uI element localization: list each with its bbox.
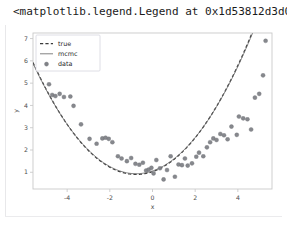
- data-point: [245, 117, 249, 121]
- data-point: [173, 175, 177, 179]
- data-point: [165, 168, 169, 172]
- output-cell-left-rule: [5, 25, 6, 217]
- data-point: [158, 166, 162, 170]
- data-point: [241, 116, 245, 120]
- matplotlib-figure: -4-20241234567xytruemcmcdata: [10, 24, 280, 214]
- data-point: [154, 158, 158, 162]
- data-point: [197, 151, 201, 155]
- data-point: [249, 127, 253, 131]
- data-point: [58, 92, 62, 96]
- data-point: [107, 137, 111, 141]
- data-point: [257, 92, 261, 96]
- data-point: [183, 156, 187, 160]
- data-point: [222, 133, 226, 137]
- y-tick-label: 4: [24, 102, 28, 109]
- legend-repr-text: <matplotlib.legend.Legend at 0x1d53812d3…: [13, 5, 287, 19]
- x-axis-label: x: [151, 203, 155, 210]
- data-point: [190, 161, 194, 165]
- legend-entry-label: mcmc: [58, 50, 78, 58]
- x-tick-label: -4: [64, 194, 70, 201]
- legend-swatch-marker: [44, 62, 48, 66]
- legend-entry-label: data: [58, 60, 72, 68]
- data-point: [88, 137, 92, 141]
- data-point: [116, 154, 120, 158]
- data-point: [47, 82, 51, 86]
- data-point: [53, 94, 57, 98]
- data-point: [169, 154, 173, 158]
- y-axis-label: y: [12, 109, 20, 113]
- data-point: [205, 145, 209, 149]
- data-point: [162, 177, 166, 181]
- y-tick-label: 5: [24, 79, 28, 86]
- data-point: [253, 96, 257, 100]
- x-tick-label: 2: [193, 194, 197, 201]
- legend-entry-label: true: [58, 40, 71, 48]
- data-point: [186, 164, 190, 168]
- data-point: [120, 156, 124, 160]
- data-point: [180, 163, 184, 167]
- y-tick-label: 1: [24, 168, 28, 175]
- data-point: [235, 133, 239, 137]
- data-point: [68, 94, 72, 98]
- data-point: [125, 159, 129, 163]
- data-point: [71, 104, 75, 108]
- data-point: [264, 39, 268, 43]
- data-point: [194, 155, 198, 159]
- data-point: [201, 154, 205, 158]
- x-tick-label: -2: [107, 194, 113, 201]
- data-point: [137, 163, 141, 167]
- y-tick-label: 7: [24, 35, 28, 42]
- data-point: [214, 138, 218, 142]
- data-point: [261, 73, 265, 77]
- data-point: [110, 140, 114, 144]
- data-point: [95, 142, 99, 146]
- data-point: [129, 156, 133, 160]
- data-point: [149, 166, 153, 170]
- x-tick-label: 0: [151, 194, 155, 201]
- data-point: [141, 161, 145, 165]
- data-point: [62, 95, 66, 99]
- plot-canvas: -4-20241234567xytruemcmcdata: [10, 24, 280, 214]
- output-cell-bottom-rule: [5, 216, 282, 217]
- notebook-output-cell: <matplotlib.legend.Legend at 0x1d53812d3…: [0, 0, 287, 229]
- data-point: [133, 162, 137, 166]
- data-point: [208, 140, 212, 144]
- data-point: [229, 125, 233, 129]
- x-tick-label: 4: [236, 194, 240, 201]
- data-point: [152, 171, 156, 175]
- data-point: [226, 137, 230, 141]
- y-tick-label: 3: [24, 124, 28, 131]
- data-point: [79, 122, 83, 126]
- y-tick-label: 2: [24, 146, 28, 153]
- data-point: [237, 115, 241, 119]
- legend: truemcmcdata: [36, 35, 100, 71]
- y-tick-label: 6: [24, 57, 28, 64]
